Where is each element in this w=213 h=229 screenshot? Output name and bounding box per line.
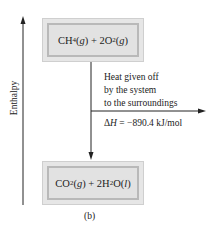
heat-annotation: Heat given off by the system to the surr…: [104, 71, 177, 110]
figure-caption: (b): [84, 211, 95, 221]
products-box: CO2(g) + 2H2O(l): [42, 161, 144, 205]
annotation-line-1: Heat given off: [104, 71, 177, 84]
reactants-box: CH4(g) + 2O2(g): [42, 18, 144, 62]
annotation-line-2: by the system: [104, 84, 177, 97]
axis-label-enthalpy: Enthalpy: [9, 78, 19, 118]
products-formula: CO2(g) + 2H2O(l): [47, 166, 139, 200]
delta-h-value: ΔH = −890.4 kJ/mol: [104, 117, 182, 130]
heat-arrowhead-icon: [198, 109, 206, 114]
annotation-line-3: to the surroundings: [104, 97, 177, 110]
reaction-arrowhead-icon: [89, 152, 94, 160]
reactants-formula: CH4(g) + 2O2(g): [47, 23, 139, 57]
axis-arrowhead-icon: [21, 16, 26, 24]
